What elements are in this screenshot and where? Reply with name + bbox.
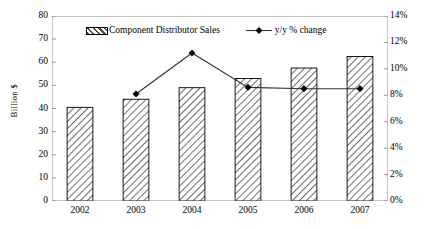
plot-area bbox=[52, 16, 388, 201]
left-tick-label-60: 60 bbox=[39, 58, 49, 68]
x-axis-label-2007: 2007 bbox=[332, 206, 388, 224]
bar-2007 bbox=[347, 56, 373, 201]
left-tick-label-50: 50 bbox=[39, 81, 49, 91]
right-tick-label-12%: 12% bbox=[390, 38, 407, 48]
legend-entry-bar: Component Distributor Sales bbox=[86, 26, 220, 36]
left-tick-label-40: 40 bbox=[39, 104, 49, 114]
left-axis-tick-labels: 01020304050607080 bbox=[20, 0, 48, 229]
x-axis-label-2002: 2002 bbox=[52, 206, 108, 224]
legend-bar-label: Component Distributor Sales bbox=[109, 26, 220, 36]
right-tick-label-6%: 6% bbox=[390, 117, 403, 127]
legend-bar-swatch-icon bbox=[86, 27, 108, 35]
x-axis-label-2004: 2004 bbox=[164, 206, 220, 224]
right-tick-label-10%: 10% bbox=[390, 64, 407, 74]
legend-line-marker-icon bbox=[246, 26, 272, 35]
line-series-group bbox=[133, 50, 363, 97]
chart-legend: Component Distributor Sales y/y % change bbox=[86, 26, 327, 36]
left-tick-label-10: 10 bbox=[39, 173, 49, 183]
left-tick-label-20: 20 bbox=[39, 150, 49, 160]
right-tick-label-0%: 0% bbox=[390, 196, 403, 206]
right-axis-tick-labels: 0%2%4%6%8%10%12%14% bbox=[390, 0, 430, 229]
x-axis-label-2003: 2003 bbox=[108, 206, 164, 224]
right-tick-label-14%: 14% bbox=[390, 11, 407, 21]
legend-entry-line: y/y % change bbox=[246, 26, 327, 36]
left-tick-label-70: 70 bbox=[39, 34, 49, 44]
left-tick-label-0: 0 bbox=[43, 196, 48, 206]
legend-line-swatch-icon bbox=[246, 26, 272, 35]
y-axis-title-label: Billion $ bbox=[9, 84, 19, 118]
bar-2002 bbox=[67, 107, 93, 201]
plot-svg bbox=[52, 16, 388, 201]
bar-2003 bbox=[123, 99, 149, 201]
x-axis-category-labels: 200220032004200520062007 bbox=[52, 206, 388, 224]
bar-2005 bbox=[235, 78, 261, 201]
right-tick-label-4%: 4% bbox=[390, 143, 403, 153]
left-tick-label-30: 30 bbox=[39, 127, 49, 137]
right-tick-label-8%: 8% bbox=[390, 91, 403, 101]
x-axis-label-2005: 2005 bbox=[220, 206, 276, 224]
left-tick-label-80: 80 bbox=[39, 11, 49, 21]
bar-series-group bbox=[67, 56, 373, 201]
chart-container: Billion $ 01020304050607080 0%2%4%6%8%10… bbox=[0, 0, 431, 229]
right-tick-label-2%: 2% bbox=[390, 170, 403, 180]
x-axis-label-2006: 2006 bbox=[276, 206, 332, 224]
bar-2004 bbox=[179, 88, 205, 201]
axes-group bbox=[52, 16, 388, 201]
legend-line-label: y/y % change bbox=[275, 26, 327, 36]
